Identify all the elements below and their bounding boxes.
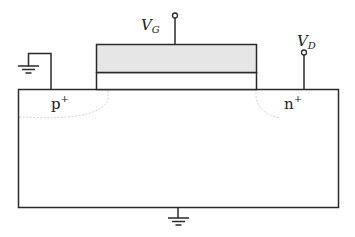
- n-plus-region-boundary: [256, 89, 280, 118]
- mosfet-diagram: VG VD p+ n+: [0, 0, 355, 237]
- drain-voltage-label: VD: [297, 32, 316, 51]
- ground-icon: [18, 66, 39, 73]
- drain-terminal: [302, 50, 307, 55]
- p-plus-label: p+: [51, 93, 69, 113]
- gate-voltage-label: VG: [141, 16, 160, 35]
- ground-icon: [168, 218, 189, 225]
- gate-oxide: [97, 73, 257, 90]
- gate-electrode: [97, 45, 257, 73]
- n-plus-label: n+: [284, 93, 302, 113]
- source-ground-wire: [29, 54, 52, 90]
- gate-terminal: [173, 13, 178, 18]
